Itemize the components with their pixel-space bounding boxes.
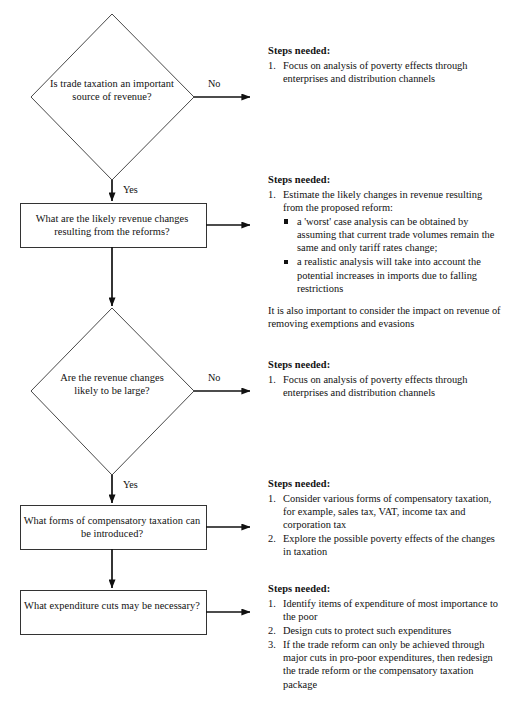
steps-item-number: 2. [268, 532, 281, 545]
steps-title: Steps needed: [268, 358, 502, 371]
steps-note: It is also important to consider the imp… [268, 304, 502, 331]
decision-node-1-label: Is trade taxation an important source of… [48, 77, 176, 103]
steps-list: 1. Focus on analysis of poverty effects … [268, 59, 502, 86]
decision-node-2-label: Are the revenue changes likely to be lar… [48, 371, 176, 397]
steps-item-text: Focus on analysis of poverty effects thr… [283, 60, 468, 84]
steps-item-number: 3. [268, 638, 281, 651]
steps-item-text: Design cuts to protect such expenditures [283, 625, 451, 636]
process-node-1-label: What are the likely revenue changes resu… [23, 212, 201, 238]
steps-item: 1. Focus on analysis of poverty effects … [268, 59, 502, 86]
steps-item: 2. Design cuts to protect such expenditu… [268, 624, 502, 637]
square-bullet-icon [284, 260, 288, 264]
flowchart-figure: Is trade taxation an important source of… [0, 0, 506, 715]
steps-subitem-text: a 'worst' case analysis can be obtained … [297, 216, 494, 254]
edge-label-yes-2: Yes [123, 479, 138, 491]
steps-item-number: 1. [268, 373, 281, 386]
steps-block-1: Steps needed: 1. Focus on analysis of po… [268, 44, 502, 86]
steps-list: 1. Consider various forms of compensator… [268, 492, 502, 559]
steps-title: Steps needed: [268, 44, 502, 57]
steps-title: Steps needed: [268, 477, 502, 490]
steps-item: 1. Focus on analysis of poverty effects … [268, 373, 502, 400]
edge-label-yes-1: Yes [123, 184, 138, 196]
steps-sublist: a 'worst' case analysis can be obtained … [283, 215, 502, 295]
steps-list: 1. Estimate the likely changes in revenu… [268, 188, 502, 295]
steps-item-number: 1. [268, 59, 281, 72]
steps-item: 1. Estimate the likely changes in revenu… [268, 188, 502, 295]
steps-item-text: If the trade reform can only be achieved… [283, 639, 493, 690]
steps-block-2: Steps needed: 1. Estimate the likely cha… [268, 173, 502, 331]
steps-item-number: 1. [268, 188, 281, 201]
steps-item-number: 2. [268, 624, 281, 637]
steps-title: Steps needed: [268, 173, 502, 186]
steps-block-4: Steps needed: 1. Consider various forms … [268, 477, 502, 559]
steps-block-3: Steps needed: 1. Focus on analysis of po… [268, 358, 502, 400]
steps-list: 1. Identify items of expenditure of most… [268, 597, 502, 691]
edge-label-no-2: No [208, 372, 220, 384]
steps-item-number: 1. [268, 597, 281, 610]
steps-item: 1. Consider various forms of compensator… [268, 492, 502, 532]
steps-item-text: Estimate the likely changes in revenue r… [283, 189, 482, 213]
edge-label-no-1: No [208, 78, 220, 90]
process-node-2-label: What forms of compensatory taxation can … [23, 514, 201, 540]
steps-item-number: 1. [268, 492, 281, 505]
steps-item: 2. Explore the possible poverty effects … [268, 532, 502, 559]
square-bullet-icon [284, 219, 288, 223]
steps-item-text: Consider various forms of compensatory t… [283, 493, 491, 531]
steps-item: 3. If the trade reform can only be achie… [268, 638, 502, 691]
steps-item-text: Explore the possible poverty effects of … [283, 533, 495, 557]
steps-item: 1. Identify items of expenditure of most… [268, 597, 502, 624]
steps-subitem: a realistic analysis will take into acco… [283, 255, 502, 295]
steps-block-5: Steps needed: 1. Identify items of expen… [268, 582, 502, 691]
steps-item-text: Identify items of expenditure of most im… [283, 598, 498, 622]
process-node-3-label: What expenditure cuts may be necessary? [23, 599, 201, 612]
steps-title: Steps needed: [268, 582, 502, 595]
steps-list: 1. Focus on analysis of poverty effects … [268, 373, 502, 400]
process-node-3-shape [21, 591, 207, 635]
steps-subitem: a 'worst' case analysis can be obtained … [283, 215, 502, 255]
steps-item-text: Focus on analysis of poverty effects thr… [283, 374, 468, 398]
steps-subitem-text: a realistic analysis will take into acco… [297, 256, 481, 294]
